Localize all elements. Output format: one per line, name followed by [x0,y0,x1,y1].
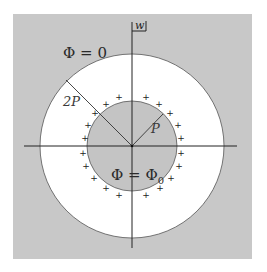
plus-icon: + [174,120,182,130]
w-plane-label: w [135,19,145,32]
plus-icon: + [115,190,123,200]
plus-icon: + [79,148,87,158]
plus-icon: + [102,99,110,109]
plus-icon: + [91,108,99,118]
plus-icon: + [102,183,110,193]
plus-icon: + [167,173,175,183]
inner-region-label-main: Φ = Φ [111,166,158,184]
plus-icon: + [175,161,183,171]
inner-radius-label: P [150,121,160,136]
w-plane-label-box: w [132,19,146,32]
plus-icon: + [155,99,163,109]
plus-icon: + [142,92,150,102]
plus-icon: + [156,183,164,193]
plus-icon: + [177,133,185,143]
plus-icon: + [82,161,90,171]
plus-icon: + [90,173,98,183]
outer-radius-label: 2P [62,94,80,109]
origin-dot [131,145,134,148]
plus-icon: + [115,92,123,102]
plus-icon: + [142,190,150,200]
plus-icon: + [84,120,92,130]
plus-icon: + [177,148,185,158]
outer-boundary-label: Φ = 0 [63,44,107,62]
plus-icon: + [81,133,89,143]
plus-icon: + [166,108,174,118]
potential-diagram: w Φ = 0 2P P Φ = Φ0 + + + + + + + + + + … [0,0,267,272]
